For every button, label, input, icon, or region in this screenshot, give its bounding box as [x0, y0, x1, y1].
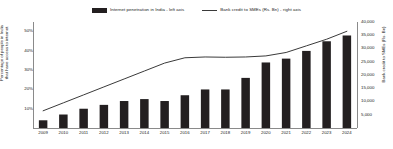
y-right-tick-5,000: 5,000	[361, 113, 387, 117]
x-tick-2015: 2015	[154, 131, 176, 135]
legend-bar-swatch-icon	[92, 8, 107, 13]
y-left-tick-20%: 20%	[9, 87, 33, 91]
x-tick-2013: 2013	[113, 131, 135, 135]
x-tick-2018: 2018	[214, 131, 236, 135]
bar-2024	[343, 35, 352, 128]
chart-container: Internet penetration in India - left axi…	[0, 0, 393, 149]
plot-svg	[33, 22, 357, 128]
bar-2020	[262, 62, 271, 128]
bar-2019	[241, 78, 250, 128]
y-right-tick-35,000: 35,000	[361, 33, 387, 37]
y-right-tick-25,000: 25,000	[361, 60, 387, 64]
legend-bar-label: Internet penetration in India - left axi…	[110, 8, 184, 12]
bar-2013	[120, 101, 128, 128]
x-tick-2012: 2012	[93, 131, 115, 135]
y-right-tick-20,000: 20,000	[361, 73, 387, 77]
y-right-tick-15,000: 15,000	[361, 86, 387, 90]
y-left-tick-40%: 40%	[9, 49, 33, 53]
x-tick-2011: 2011	[73, 131, 95, 135]
bar-2014	[140, 99, 149, 128]
x-tick-2014: 2014	[133, 131, 155, 135]
bar-series	[39, 35, 351, 128]
x-tick-2024: 2024	[336, 131, 358, 135]
x-tick-2022: 2022	[295, 131, 317, 135]
x-tick-2020: 2020	[255, 131, 277, 135]
y-left-tick-30%: 30%	[9, 68, 33, 72]
y-right-tick-10,000: 10,000	[361, 99, 387, 103]
x-tick-2023: 2023	[316, 131, 338, 135]
bar-2016	[181, 95, 190, 128]
bar-2023	[322, 41, 331, 128]
legend-line-label: Bank credit to SMEs (Rs. Bn) - right axi…	[220, 8, 301, 12]
x-axis-line	[33, 128, 357, 129]
legend-item-line: Bank credit to SMEs (Rs. Bn) - right axi…	[202, 8, 301, 13]
line-series	[43, 31, 347, 111]
chart-legend: Internet penetration in India - left axi…	[0, 8, 393, 13]
y-left-tick-50%: 50%	[9, 29, 33, 33]
bar-2015	[160, 101, 169, 128]
legend-line-swatch-icon	[202, 8, 217, 13]
x-tick-2010: 2010	[52, 131, 74, 135]
bar-2011	[79, 109, 88, 128]
bar-2018	[221, 89, 230, 128]
y-left-tick-10%: 10%	[9, 107, 33, 111]
x-tick-2019: 2019	[235, 131, 257, 135]
bar-2022	[302, 51, 311, 128]
bar-2017	[201, 89, 210, 128]
bar-2012	[100, 105, 109, 128]
bar-2010	[59, 115, 68, 128]
x-tick-2016: 2016	[174, 131, 196, 135]
y-right-tick-30,000: 30,000	[361, 46, 387, 50]
bar-2021	[282, 59, 291, 128]
x-tick-2009: 2009	[32, 131, 54, 135]
y-axis-right-line	[357, 22, 358, 128]
x-tick-2017: 2017	[194, 131, 216, 135]
y-axis-left-line	[33, 22, 34, 128]
y-right-tick-40,000: 40,000	[361, 20, 387, 24]
credit-line-path	[43, 31, 347, 111]
x-tick-2021: 2021	[275, 131, 297, 135]
legend-item-bars: Internet penetration in India - left axi…	[92, 8, 184, 13]
plot-area	[33, 22, 357, 128]
